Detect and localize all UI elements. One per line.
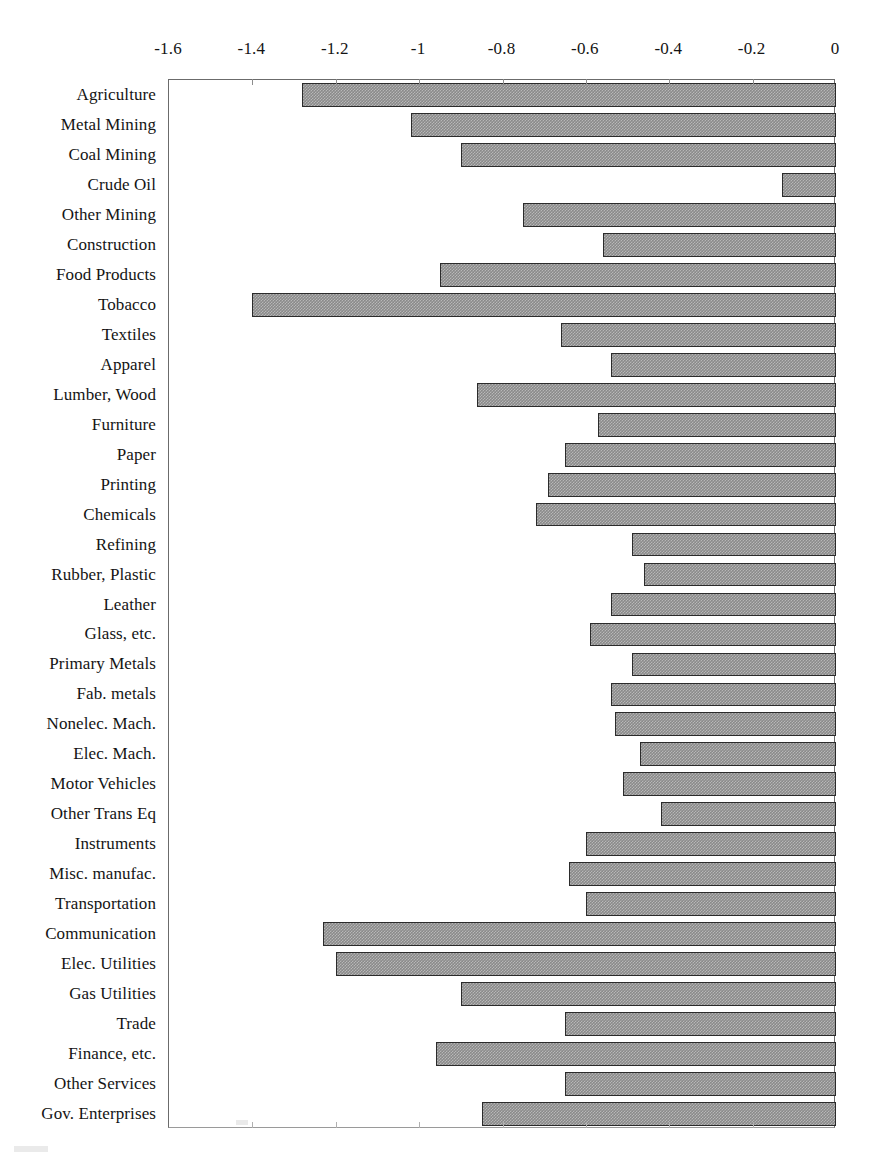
bar — [565, 1012, 836, 1036]
y-category-label: Printing — [100, 476, 156, 493]
bar — [436, 1042, 836, 1066]
x-tick-mark — [336, 1122, 337, 1128]
bar — [565, 443, 836, 467]
y-category-label: Metal Mining — [61, 116, 156, 133]
x-tick-mark — [419, 1122, 420, 1128]
bar — [623, 772, 836, 796]
bar — [411, 113, 836, 137]
x-tick-label: -0.2 — [738, 38, 766, 60]
x-tick-mark — [336, 79, 337, 85]
bar — [603, 233, 836, 257]
y-category-label: Primary Metals — [49, 655, 156, 672]
y-category-label: Gov. Enterprises — [41, 1105, 156, 1122]
x-tick-label: -1.6 — [154, 38, 182, 60]
y-category-label: Textiles — [102, 326, 156, 343]
y-category-label: Nonelec. Mach. — [47, 715, 157, 732]
bars-container — [169, 80, 834, 1127]
y-category-label: Furniture — [92, 416, 156, 433]
y-category-label: Elec. Mach. — [73, 745, 156, 762]
y-category-label: Rubber, Plastic — [51, 566, 156, 583]
bar — [477, 383, 836, 407]
x-tick-mark — [252, 1122, 253, 1128]
bar — [586, 892, 836, 916]
bar — [782, 173, 836, 197]
bar — [523, 203, 836, 227]
y-category-label: Finance, etc. — [68, 1045, 156, 1062]
x-tick-mark — [503, 1122, 504, 1128]
y-category-label: Misc. manufac. — [49, 865, 156, 882]
x-tick-mark — [419, 79, 420, 85]
bar — [586, 832, 836, 856]
y-category-label: Lumber, Wood — [53, 386, 156, 403]
x-tick-label: -0.4 — [654, 38, 682, 60]
plot-area — [168, 79, 835, 1128]
y-category-label: Motor Vehicles — [51, 775, 156, 792]
x-axis-tick-labels: -1.6-1.4-1.2-1-0.8-0.6-0.4-0.20 — [0, 38, 871, 64]
bar — [548, 473, 836, 497]
y-category-label: Construction — [67, 236, 156, 253]
bar — [615, 712, 836, 736]
x-tick-mark — [586, 79, 587, 85]
y-category-label: Trade — [116, 1015, 156, 1032]
x-tick-label: -1.4 — [238, 38, 266, 60]
y-category-label: Instruments — [75, 835, 156, 852]
bar — [611, 353, 836, 377]
bar — [598, 413, 836, 437]
bar — [611, 683, 836, 707]
x-tick-mark — [753, 79, 754, 85]
x-tick-label: -0.8 — [488, 38, 516, 60]
bar — [302, 83, 836, 107]
x-tick-label: -1 — [411, 38, 426, 60]
bar — [611, 593, 836, 617]
x-tick-label: -0.6 — [571, 38, 599, 60]
y-category-label: Tobacco — [98, 296, 156, 313]
bar — [565, 1072, 836, 1096]
bar — [632, 653, 836, 677]
x-tick-label: 0 — [831, 38, 840, 60]
y-category-label: Food Products — [56, 266, 156, 283]
y-category-label: Glass, etc. — [85, 625, 156, 642]
y-category-label: Other Services — [54, 1075, 156, 1092]
y-category-label: Coal Mining — [68, 146, 156, 163]
x-tick-mark — [252, 79, 253, 85]
x-tick-mark — [753, 1122, 754, 1128]
bar — [644, 563, 836, 587]
bar — [536, 503, 836, 527]
bar — [440, 263, 836, 287]
bar — [482, 1102, 836, 1126]
scan-artifact — [14, 1146, 48, 1152]
bar — [632, 533, 836, 557]
bar — [590, 623, 836, 647]
bar — [336, 952, 836, 976]
bar — [561, 323, 836, 347]
y-category-label: Paper — [117, 446, 156, 463]
y-category-label: Communication — [45, 925, 156, 942]
bar — [569, 862, 836, 886]
y-category-label: Refining — [96, 536, 156, 553]
bar — [252, 293, 836, 317]
scan-artifact — [236, 1120, 248, 1125]
x-tick-label: -1.2 — [321, 38, 349, 60]
bar — [461, 982, 836, 1006]
y-category-label: Agriculture — [77, 86, 156, 103]
y-category-label: Other Mining — [62, 206, 156, 223]
y-category-label: Chemicals — [83, 506, 156, 523]
x-tick-mark — [503, 79, 504, 85]
y-category-label: Fab. metals — [77, 685, 156, 702]
y-category-label: Crude Oil — [88, 176, 156, 193]
y-category-label: Gas Utilities — [69, 985, 156, 1002]
y-category-label: Leather — [103, 596, 156, 613]
bar — [461, 143, 836, 167]
x-tick-mark — [669, 79, 670, 85]
bar — [323, 922, 836, 946]
x-tick-mark — [586, 1122, 587, 1128]
y-axis-category-labels: AgricultureMetal MiningCoal MiningCrude … — [0, 79, 162, 1128]
bar — [661, 802, 836, 826]
horizontal-bar-chart: -1.6-1.4-1.2-1-0.8-0.6-0.4-0.20 Agricult… — [0, 0, 871, 1157]
x-tick-mark — [669, 1122, 670, 1128]
y-category-label: Apparel — [101, 356, 156, 373]
y-category-label: Other Trans Eq — [51, 805, 156, 822]
bar — [640, 742, 836, 766]
y-category-label: Elec. Utilities — [61, 955, 156, 972]
y-category-label: Transportation — [55, 895, 156, 912]
